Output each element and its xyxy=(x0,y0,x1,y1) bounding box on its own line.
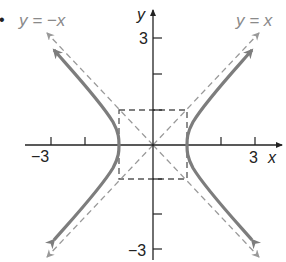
asymptote-label-neg: y = −x xyxy=(18,11,66,30)
tick-label-y-pos3: 3 xyxy=(139,30,148,47)
tick-label-x-neg3: −3 xyxy=(31,148,49,165)
hyperbola-plot: • y = −x y = x y x 3 −3 −3 3 xyxy=(0,0,286,262)
y-axis-label: y xyxy=(136,6,146,23)
x-axis-label: x xyxy=(267,149,277,166)
asymptote-label-pos: y = x xyxy=(235,11,273,30)
tick-label-x-pos3: 3 xyxy=(249,149,258,166)
bullet-marker: • xyxy=(0,11,5,28)
tick-label-y-neg3: −3 xyxy=(128,242,146,259)
